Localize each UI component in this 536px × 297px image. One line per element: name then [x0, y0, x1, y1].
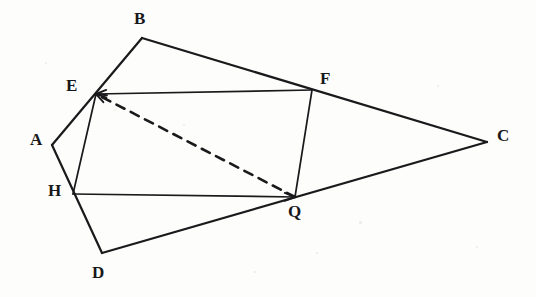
scan-speck-3 [437, 85, 439, 87]
scan-speck-7 [316, 252, 318, 254]
dashed-diagonal [101, 97, 295, 197]
vertex-label-d: D [92, 264, 104, 281]
scan-speck-2 [114, 109, 116, 111]
geometry-figure: A B C D E F H Q [0, 0, 536, 297]
scan-speck-6 [476, 246, 478, 248]
diagonal-Q-E [101, 97, 295, 197]
scan-speck-1 [183, 124, 185, 126]
figure-canvas [0, 0, 536, 297]
scan-speck-4 [254, 271, 256, 273]
vertex-label-a: A [30, 131, 42, 148]
vertex-label-q: Q [288, 203, 301, 220]
segment-F-Q [295, 90, 312, 197]
vertex-label-b: B [134, 10, 145, 27]
segment-F-E [96, 90, 312, 94]
segment-H-Q [73, 194, 295, 197]
edge-B-C [142, 38, 487, 142]
segment-E-H [73, 94, 96, 194]
vertex-label-c: C [497, 127, 509, 144]
outer-quadrilateral [52, 38, 487, 253]
vertex-label-f: F [320, 70, 330, 87]
vertex-label-e: E [66, 77, 77, 94]
scan-speck-0 [359, 221, 362, 224]
vertex-label-h: H [48, 182, 61, 199]
scan-speck-5 [45, 62, 47, 64]
